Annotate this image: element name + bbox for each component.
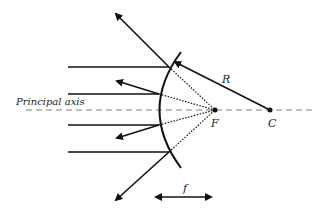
focus-point	[213, 108, 218, 113]
reflected-ray-3	[117, 125, 159, 138]
radius-label: R	[221, 73, 230, 86]
focus-label: F	[210, 117, 219, 130]
center-point	[268, 108, 273, 113]
center-label: C	[268, 117, 277, 130]
focal-length-label: f	[182, 182, 189, 195]
principal-axis-label: Principal axis	[15, 96, 85, 107]
reflected-ray-1	[116, 14, 169, 67]
reflected-ray-4	[116, 152, 169, 200]
reflected-ray-2	[117, 81, 159, 94]
convex-mirror-diagram: Principal axis F R C f	[0, 0, 312, 212]
